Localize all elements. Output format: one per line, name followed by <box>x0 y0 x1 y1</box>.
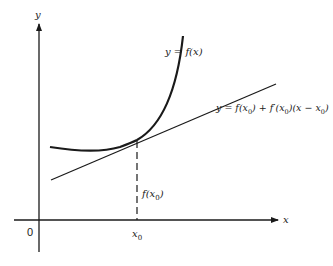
x0-label: x0 <box>132 228 142 242</box>
height-label: f(x0) <box>141 188 164 202</box>
function-curve <box>50 36 183 151</box>
origin-label: 0 <box>27 226 33 238</box>
x-axis-label: x <box>283 214 289 225</box>
y-axis-label: y <box>34 9 41 20</box>
tangent-line <box>51 84 276 180</box>
tangent-label: y = f(x0) + f′(x0)(x − x0) <box>215 102 329 116</box>
tangent-line-diagram: y x 0 x0 f(x0) y = f(x) y = f(x0) + f′(x… <box>0 0 333 266</box>
curve-label: y = f(x) <box>164 46 203 57</box>
